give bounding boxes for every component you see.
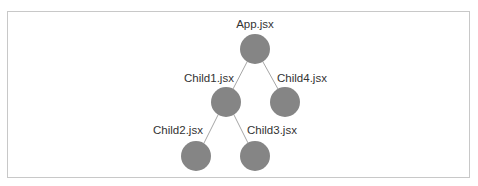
edge-child1-child3 bbox=[234, 115, 248, 143]
node-child2 bbox=[181, 141, 211, 171]
edge-app-child4 bbox=[263, 62, 278, 89]
label-child1: Child1.jsx bbox=[184, 72, 234, 84]
node-child1 bbox=[211, 87, 241, 117]
node-app bbox=[240, 34, 270, 64]
node-child4 bbox=[270, 87, 300, 117]
label-child3: Child3.jsx bbox=[247, 124, 297, 136]
label-app: App.jsx bbox=[236, 18, 274, 30]
label-child4: Child4.jsx bbox=[277, 72, 327, 84]
nodes bbox=[181, 34, 300, 171]
component-tree-diagram: App.jsx Child1.jsx Child4.jsx Child2.jsx… bbox=[0, 0, 478, 186]
labels: App.jsx Child1.jsx Child4.jsx Child2.jsx… bbox=[153, 18, 327, 136]
node-child3 bbox=[240, 141, 270, 171]
edge-app-child1 bbox=[233, 62, 247, 89]
edge-child1-child2 bbox=[204, 115, 218, 143]
label-child2: Child2.jsx bbox=[153, 124, 203, 136]
